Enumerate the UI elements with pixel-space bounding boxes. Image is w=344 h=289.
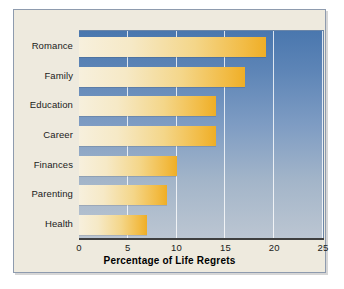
bar-education xyxy=(79,96,216,116)
category-label-romance: Romance xyxy=(32,40,73,51)
bar-fill xyxy=(79,156,177,176)
bar-fill xyxy=(79,96,216,116)
x-tick-label-20: 20 xyxy=(269,242,280,253)
category-label-parenting: Parenting xyxy=(31,188,73,199)
x-axis-line xyxy=(79,238,324,240)
bar-fill xyxy=(79,67,245,87)
bar-fill xyxy=(79,37,266,57)
category-label-family: Family xyxy=(44,70,73,81)
chart-figure: Percentage of Life Regrets RomanceFamily… xyxy=(13,9,326,273)
x-tick-label-25: 25 xyxy=(318,242,329,253)
gridline-25 xyxy=(322,31,323,239)
bar-career xyxy=(79,126,216,146)
category-label-health: Health xyxy=(45,218,73,229)
x-axis-title: Percentage of Life Regrets xyxy=(14,255,325,266)
gridline-20 xyxy=(273,31,274,239)
gridline-15 xyxy=(224,31,225,239)
bar-health xyxy=(79,215,147,235)
x-tick-label-15: 15 xyxy=(220,242,231,253)
bar-fill xyxy=(79,185,167,205)
bar-romance xyxy=(79,37,266,57)
bar-finances xyxy=(79,156,177,176)
x-tick-label-0: 0 xyxy=(76,242,81,253)
bar-family xyxy=(79,67,245,87)
plot-area xyxy=(79,30,324,239)
x-tick-label-5: 5 xyxy=(125,242,130,253)
x-tick-label-10: 10 xyxy=(171,242,182,253)
category-label-career: Career xyxy=(43,129,73,140)
bar-parenting xyxy=(79,185,167,205)
category-label-finances: Finances xyxy=(34,159,73,170)
category-label-education: Education xyxy=(30,99,73,110)
bar-fill xyxy=(79,126,216,146)
bar-fill xyxy=(79,215,147,235)
